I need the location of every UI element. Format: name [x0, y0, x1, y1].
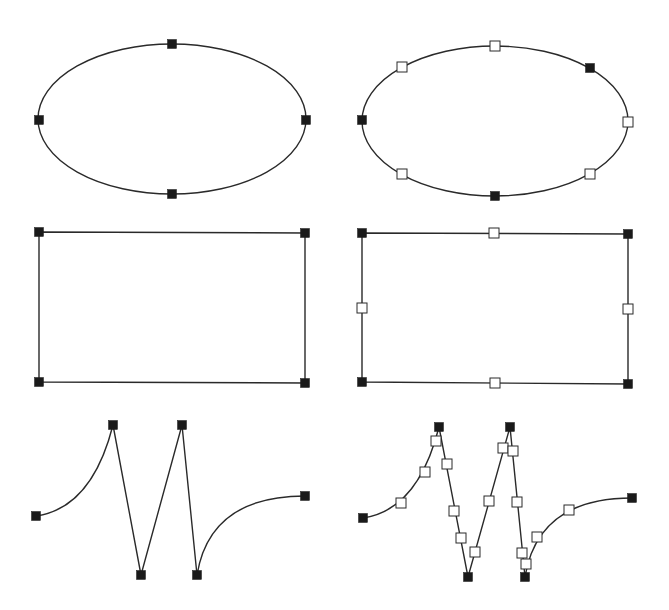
path-original-filled-handle-icon[interactable] [193, 571, 202, 580]
ellipse-subdivided-hollow-handle-icon[interactable] [397, 169, 407, 179]
handles-layer [32, 40, 637, 582]
ellipse-original-filled-handle-icon[interactable] [168, 190, 177, 199]
path-subdivided-hollow-handle-icon[interactable] [396, 498, 406, 508]
path-subdivided-hollow-handle-icon[interactable] [517, 548, 527, 558]
path-original-filled-handle-icon[interactable] [137, 571, 146, 580]
path-subdivided-hollow-handle-icon[interactable] [431, 436, 441, 446]
rectangle-subdivided-hollow-handle-icon[interactable] [489, 228, 499, 238]
rectangle-subdivided-filled-handle-icon[interactable] [624, 230, 633, 239]
rectangle-original-filled-handle-icon[interactable] [301, 229, 310, 238]
ellipse-subdivided-filled-handle-icon[interactable] [358, 116, 367, 125]
path-subdivided-filled-handle-icon[interactable] [628, 494, 637, 503]
path-subdivided-hollow-handle-icon[interactable] [420, 467, 430, 477]
shapes-layer [36, 44, 632, 577]
rectangle-subdivided-hollow-handle-icon[interactable] [357, 303, 367, 313]
path-subdivided-hollow-handle-icon[interactable] [532, 532, 542, 542]
path-subdivided-filled-handle-icon[interactable] [464, 573, 473, 582]
path-subdivided-hollow-handle-icon[interactable] [456, 533, 466, 543]
path-original-filled-handle-icon[interactable] [109, 421, 118, 430]
rectangle-subdivided-hollow-handle-icon[interactable] [623, 304, 633, 314]
ellipse-original-filled-handle-icon[interactable] [168, 40, 177, 49]
path-subdivided-hollow-handle-icon[interactable] [508, 446, 518, 456]
path-original-filled-handle-icon[interactable] [301, 492, 310, 501]
ellipse-subdivided-filled-handle-icon[interactable] [491, 192, 500, 201]
path-subdivided-filled-handle-icon[interactable] [506, 423, 515, 432]
path-subdivided-hollow-handle-icon[interactable] [498, 443, 508, 453]
path-subdivided-filled-handle-icon[interactable] [521, 573, 530, 582]
rectangle-subdivided-filled-handle-icon[interactable] [358, 229, 367, 238]
ellipse-original-filled-handle-icon[interactable] [35, 116, 44, 125]
rectangle-subdivided-hollow-handle-icon[interactable] [490, 378, 500, 388]
ellipse-original-shape[interactable] [38, 44, 306, 194]
ellipse-subdivided-hollow-handle-icon[interactable] [397, 62, 407, 72]
ellipse-subdivided-hollow-handle-icon[interactable] [490, 41, 500, 51]
rectangle-original-filled-handle-icon[interactable] [301, 379, 310, 388]
rectangle-subdivided-shape[interactable] [362, 233, 628, 384]
path-original-filled-handle-icon[interactable] [32, 512, 41, 521]
ellipse-original-filled-handle-icon[interactable] [302, 116, 311, 125]
path-subdivided-filled-handle-icon[interactable] [359, 514, 368, 523]
ellipse-subdivided-hollow-handle-icon[interactable] [623, 117, 633, 127]
diagram-canvas [0, 0, 669, 610]
path-subdivided-hollow-handle-icon[interactable] [512, 497, 522, 507]
path-subdivided-filled-handle-icon[interactable] [435, 423, 444, 432]
path-subdivided-hollow-handle-icon[interactable] [449, 506, 459, 516]
rectangle-original-filled-handle-icon[interactable] [35, 228, 44, 237]
path-subdivided-hollow-handle-icon[interactable] [442, 459, 452, 469]
path-subdivided-hollow-handle-icon[interactable] [470, 547, 480, 557]
rectangle-original-shape[interactable] [39, 232, 305, 383]
path-original-shape[interactable] [36, 425, 305, 575]
rectangle-subdivided-filled-handle-icon[interactable] [358, 378, 367, 387]
path-original-filled-handle-icon[interactable] [178, 421, 187, 430]
path-subdivided-hollow-handle-icon[interactable] [484, 496, 494, 506]
ellipse-subdivided-filled-handle-icon[interactable] [586, 64, 595, 73]
path-subdivided-hollow-handle-icon[interactable] [564, 505, 574, 515]
rectangle-original-filled-handle-icon[interactable] [35, 378, 44, 387]
rectangle-subdivided-filled-handle-icon[interactable] [624, 380, 633, 389]
path-subdivided-hollow-handle-icon[interactable] [521, 559, 531, 569]
ellipse-subdivided-hollow-handle-icon[interactable] [585, 169, 595, 179]
